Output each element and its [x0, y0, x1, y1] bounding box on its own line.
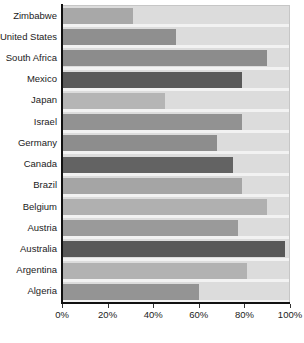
x-axis-tick-label: 100%	[278, 309, 302, 321]
bar-row	[62, 282, 289, 302]
x-axis-tick-label: 80%	[235, 309, 254, 321]
x-axis-tick-mark	[108, 304, 109, 308]
y-axis-tick-label: Germany	[18, 136, 57, 150]
bar-row	[62, 27, 289, 48]
bar	[62, 178, 242, 194]
y-axis-tick-label: United States	[0, 30, 57, 44]
bar-row	[62, 239, 289, 260]
bar	[62, 284, 199, 300]
bar	[62, 263, 247, 279]
bar-row	[62, 155, 289, 176]
bar-row	[62, 133, 289, 154]
x-axis-tick-mark	[62, 304, 63, 308]
y-axis-tick-label: Israel	[34, 115, 57, 129]
y-axis-tick-label: Argentina	[16, 263, 57, 277]
y-axis-tick-label: Belgium	[23, 200, 57, 214]
y-axis-tick-label: Zimbabwe	[13, 9, 57, 23]
y-axis-tick-label: Japan	[31, 93, 57, 107]
x-axis-tick-label: 60%	[189, 309, 208, 321]
x-axis-tick-label: 0%	[55, 309, 69, 321]
x-axis-tick-mark	[199, 304, 200, 308]
x-axis-tick-mark	[153, 304, 154, 308]
y-axis-tick-label: Canada	[24, 157, 57, 171]
bar-row	[62, 197, 289, 218]
y-axis-line	[61, 4, 63, 304]
y-axis-tick-label: Brazil	[33, 178, 57, 192]
bar	[62, 135, 217, 151]
bars-layer	[62, 6, 289, 302]
bar	[62, 241, 285, 257]
y-axis-tick-label: South Africa	[6, 51, 57, 65]
x-axis-tick-label: 20%	[98, 309, 117, 321]
y-axis-tick-label: Mexico	[27, 72, 57, 86]
bar-row	[62, 48, 289, 69]
bar-row	[62, 70, 289, 91]
bar-row	[62, 176, 289, 197]
bar	[62, 220, 238, 236]
bar-row	[62, 218, 289, 239]
y-axis-tick-label: Algeria	[27, 284, 57, 298]
bar	[62, 199, 267, 215]
bar-row	[62, 261, 289, 282]
bar-row	[62, 91, 289, 112]
bar	[62, 8, 133, 24]
bar-row	[62, 112, 289, 133]
x-axis-tick-label: 40%	[144, 309, 163, 321]
bar-chart: ZimbabweUnited StatesSouth AfricaMexicoJ…	[0, 0, 304, 343]
x-axis-tick-labels: 0%20%40%60%80%100%	[0, 309, 304, 325]
bar-row	[62, 6, 289, 27]
x-axis-tick-mark	[290, 304, 291, 308]
y-axis-tick-label: Austria	[27, 221, 57, 235]
x-axis-tick-mark	[244, 304, 245, 308]
plot-area	[62, 5, 290, 302]
bar	[62, 157, 233, 173]
y-axis-tick-label: Australia	[20, 242, 57, 256]
bar	[62, 72, 242, 88]
bar	[62, 29, 176, 45]
bar	[62, 93, 165, 109]
y-axis-category-labels: ZimbabweUnited StatesSouth AfricaMexicoJ…	[0, 5, 60, 302]
bar	[62, 114, 242, 130]
bar	[62, 50, 267, 66]
